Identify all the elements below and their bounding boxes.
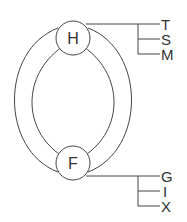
outer-loop-right <box>88 28 132 172</box>
diagram-canvas: H F T S M G I X <box>0 0 187 222</box>
node-h-label: H <box>67 30 79 47</box>
branch-label-x: X <box>161 198 171 215</box>
node-f-label: F <box>68 155 78 172</box>
branch-label-m: M <box>161 46 174 63</box>
outer-loop-left <box>15 28 59 172</box>
inner-loop-right <box>84 47 114 156</box>
inner-loop-left <box>32 47 62 156</box>
diagram: H F T S M G I X <box>0 0 187 222</box>
